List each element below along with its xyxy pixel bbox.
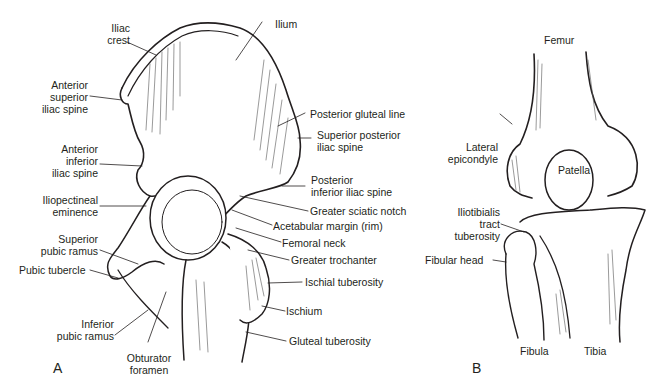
label-superior-posterior-iliac-spine: Superior posterior iliac spine <box>317 129 400 153</box>
label-fibular-head: Fibular head <box>425 254 483 266</box>
label-iliotibial-tract-tuberosity: Iliotibialis tract tuberosity <box>430 206 500 242</box>
label-inferior-pubic-ramus: Inferior pubic ramus <box>44 318 114 342</box>
label-patella: Patella <box>558 164 590 176</box>
label-posterior-inferior-iliac-spine: Posterior inferior iliac spine <box>311 174 392 198</box>
label-superior-pubic-ramus: Superior pubic ramus <box>20 233 98 257</box>
label-ischial-tuberosity: Ischial tuberosity <box>305 276 383 288</box>
label-obturator-foramen: Obturator foramen <box>110 352 188 376</box>
label-posterior-gluteal-line: Posterior gluteal line <box>310 108 405 120</box>
label-femoral-neck: Femoral neck <box>282 237 346 249</box>
knee-drawing <box>504 52 645 342</box>
label-aiis: Anterior inferior iliac spine <box>28 143 98 179</box>
label-femur: Femur <box>544 34 574 46</box>
label-iliopectineal-eminence: Iliopectineal eminence <box>20 194 98 218</box>
panel-letter-a: A <box>53 360 62 376</box>
label-ischium: Ischium <box>286 305 322 317</box>
hip-bone-drawing <box>108 23 301 362</box>
label-acetabular-margin: Acetabular margin (rim) <box>273 220 383 232</box>
label-tibia: Tibia <box>584 345 606 357</box>
label-pubic-tubercle: Pubic tubercle <box>19 264 86 276</box>
label-greater-sciatic-notch: Greater sciatic notch <box>310 205 406 217</box>
label-gluteal-tuberosity: Gluteal tuberosity <box>289 335 371 347</box>
panel-letter-b: B <box>472 360 481 376</box>
label-lateral-epicondyle: Lateral epicondyle <box>430 141 498 165</box>
label-greater-trochanter: Greater trochanter <box>291 254 377 266</box>
label-ilium: Ilium <box>275 18 297 30</box>
label-fibula: Fibula <box>520 345 549 357</box>
label-iliac-crest: Iliac crest <box>96 22 130 46</box>
label-asis: Anterior superior iliac spine <box>20 79 88 115</box>
